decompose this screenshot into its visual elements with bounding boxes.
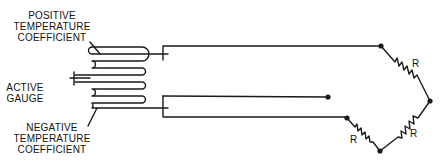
positive-leader: [90, 42, 100, 54]
label-line: COEFFICIENT: [2, 144, 102, 155]
negative-coefficient-label: NEGATIVE TEMPERATURE COEFFICIENT: [2, 122, 102, 155]
label-line: ACTIVE: [2, 82, 48, 93]
positive-coefficient-label: POSITIVE TEMPERATURE COEFFICIENT: [2, 10, 102, 43]
resistor-bottom-right: [380, 101, 430, 151]
positive-gauge-grid: [75, 47, 168, 75]
top-lead: [163, 46, 381, 60]
label-line: TEMPERATURE: [2, 21, 102, 32]
label-line: GAUGE: [2, 93, 48, 104]
resistor-top-right: [381, 46, 430, 101]
bottom-lead: [163, 96, 347, 117]
resistor-label-bottom-left: R: [350, 134, 357, 145]
node-bottom-left: [344, 115, 349, 120]
node-bottom: [377, 148, 382, 153]
node-top: [378, 43, 383, 48]
label-line: POSITIVE: [2, 10, 102, 21]
label-line: NEGATIVE: [2, 122, 102, 133]
node-right: [427, 98, 432, 103]
resistor-label-top-right: R: [412, 58, 419, 69]
middle-lead: [163, 96, 328, 97]
node-middle: [325, 94, 330, 99]
label-line: COEFFICIENT: [2, 32, 102, 43]
active-gauge-label: ACTIVE GAUGE: [2, 82, 48, 104]
label-line: TEMPERATURE: [2, 133, 102, 144]
negative-gauge-grid: [75, 82, 168, 108]
resistor-label-bottom-right: R: [410, 128, 417, 139]
